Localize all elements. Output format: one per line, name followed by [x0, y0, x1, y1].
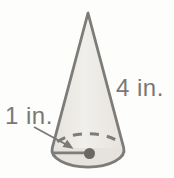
cone-body: [52, 13, 123, 148]
base-center-dot: [84, 148, 95, 159]
slant-height-label: 4 in.: [116, 74, 164, 101]
cone-diagram: 4 in. 1 in.: [0, 0, 174, 178]
cone-figure: 4 in. 1 in.: [0, 0, 174, 178]
radius-label: 1 in.: [5, 102, 53, 129]
